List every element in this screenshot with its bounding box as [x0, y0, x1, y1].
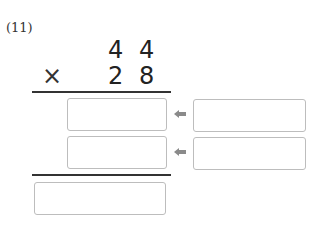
- multiplier-tens: 2: [108, 64, 123, 88]
- multiplicand-ones: 4: [139, 38, 154, 62]
- top-divider-line: [32, 91, 171, 93]
- bottom-divider-line: [32, 174, 171, 176]
- multiplicand-tens: 4: [108, 38, 123, 62]
- left-arrow-icon: [174, 148, 186, 156]
- partial-product-box-2[interactable]: [67, 136, 167, 169]
- times-operator: ×: [42, 64, 62, 88]
- multiplier-ones: 8: [139, 64, 154, 88]
- helper-box-1[interactable]: [193, 99, 306, 132]
- problem-label: (11): [6, 20, 33, 35]
- partial-product-box-1[interactable]: [67, 98, 167, 131]
- helper-box-2[interactable]: [193, 137, 306, 170]
- left-arrow-icon: [174, 110, 186, 118]
- final-product-box[interactable]: [34, 182, 166, 215]
